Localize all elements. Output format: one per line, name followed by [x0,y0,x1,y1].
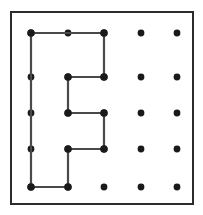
peg-c4-r4[interactable] [174,184,181,191]
peg-c4-r3[interactable] [174,146,181,153]
geoboard-canvas [0,0,203,215]
peg-c2-r4[interactable] [101,184,108,191]
peg-c4-r2[interactable] [174,110,181,117]
peg-c3-r4[interactable] [138,184,145,191]
board-frame [11,12,193,204]
polygon-vertex-9[interactable] [27,183,35,191]
polygon-vertex-0[interactable] [27,29,35,37]
polygon-vertex-6[interactable] [100,145,108,153]
peg-c3-r2[interactable] [138,110,145,117]
polygon-vertex-3[interactable] [64,73,72,81]
polygon-vertex-7[interactable] [64,145,72,153]
peg-c3-r1[interactable] [138,74,145,81]
polygon-vertex-4[interactable] [64,109,72,117]
polygon-vertex-1[interactable] [100,29,108,37]
polygon-vertex-5[interactable] [100,109,108,117]
geoboard-figure [0,0,203,215]
peg-c4-r1[interactable] [174,74,181,81]
polygon-vertex-2[interactable] [100,73,108,81]
polygon-vertex-8[interactable] [64,183,72,191]
peg-c4-r0[interactable] [174,30,181,37]
peg-c3-r3[interactable] [138,146,145,153]
peg-c3-r0[interactable] [138,30,145,37]
